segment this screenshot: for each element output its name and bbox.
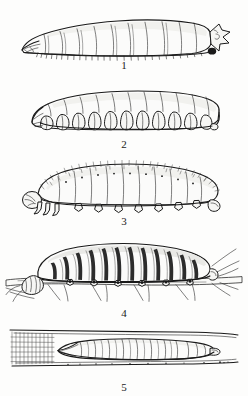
figure-1-apodous-maggot-larva: [14, 10, 234, 62]
larva-types-plate: 1: [0, 0, 248, 396]
figure-4-striped-caterpillar-on-twig: [6, 232, 242, 304]
figure-3-caption: 3: [0, 216, 248, 227]
figure-5-caption: 5: [0, 382, 248, 393]
figure-3-eruciform-hairy-caterpillar: [18, 158, 230, 216]
figure-4-caption: 4: [0, 308, 248, 319]
figure-2-caption: 2: [0, 139, 248, 150]
figure-2-apodous-lobed-grub: [26, 88, 226, 136]
figure-1-caption: 1: [0, 60, 248, 71]
figure-5-leaf-miner-larva-in-tunnel: [8, 324, 240, 378]
